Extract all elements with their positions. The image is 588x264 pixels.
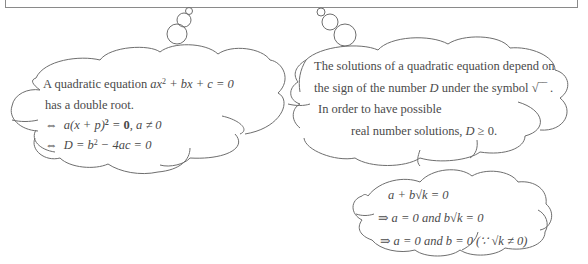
text: ≥ 0. xyxy=(475,124,498,138)
exponent: 2 xyxy=(94,138,98,147)
cloud-right-line-2: the sign of the number D under the symbo… xyxy=(314,81,553,95)
equals: = xyxy=(109,118,124,132)
thought-bubble-mid-right xyxy=(322,14,338,30)
thought-bubble-mid-left xyxy=(177,13,191,27)
cloud-right-line-1: The solutions of a quadratic equation de… xyxy=(314,59,555,73)
thought-bubble-small-right xyxy=(317,8,325,16)
thought-bubble-large-left xyxy=(167,24,187,44)
iff-symbol: ⇔ xyxy=(45,118,58,132)
math-expr: a(x + p) xyxy=(64,118,105,132)
text: real number solutions, xyxy=(351,124,466,138)
cloud-left-line-3: ⇔ a(x + p)2 = 0, a ≠ 0 xyxy=(45,118,162,134)
cloud-right-line-3: In order to have possible xyxy=(318,102,442,116)
cloud-bottom-line-1: a + b√k = 0 xyxy=(388,188,449,202)
math-D: D xyxy=(430,81,439,95)
iff-symbol: ⇔ xyxy=(45,138,58,152)
cloud-left-line-1: A quadratic equation ax2 + bx + c = 0 xyxy=(43,77,234,93)
math-expr: D = b xyxy=(64,138,94,152)
cloud-left-line-2: has a double root. xyxy=(45,98,134,112)
thought-bubble-large-right xyxy=(334,24,356,46)
cloud-bottom-line-3: ⇒ a = 0 and b = 0 (∵ √k ≠ 0) xyxy=(380,234,527,248)
cloud-bottom-line-2: ⇒ a = 0 and b√k = 0 xyxy=(378,211,483,225)
quadratic-equation-label: A quadratic equation xyxy=(43,77,150,91)
math-rest: + bx + c = 0 xyxy=(166,77,234,91)
text: under the symbol √‾‾ . xyxy=(439,81,553,95)
cloud-left-line-4: ⇔ D = b2 − 4ac = 0 xyxy=(45,138,151,154)
math-rest: , a ≠ 0 xyxy=(130,118,162,132)
math-ax: ax xyxy=(150,77,162,91)
math-D: D xyxy=(466,124,475,138)
cloud-right-line-4: real number solutions, D ≥ 0. xyxy=(351,124,497,138)
exponent: 2 xyxy=(162,77,166,86)
exponent: 2 xyxy=(105,118,109,127)
text: the sign of the number xyxy=(314,81,430,95)
math-rest: − 4ac = 0 xyxy=(98,138,152,152)
